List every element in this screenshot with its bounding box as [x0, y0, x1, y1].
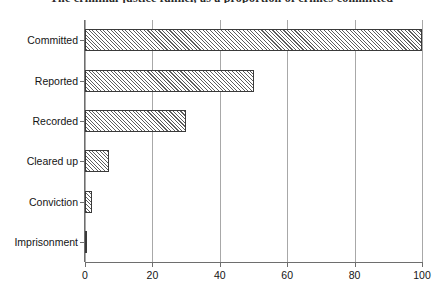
- gridline-100: [422, 20, 423, 262]
- x-tick-40: [220, 262, 221, 267]
- x-axis-line: [85, 262, 423, 263]
- x-tick-label-100: 100: [402, 270, 442, 281]
- gridline-80: [355, 20, 356, 262]
- x-tick-100: [422, 262, 423, 267]
- chart-title: The criminal justice funnel, as a propor…: [0, 0, 443, 3]
- x-tick-label-80: 80: [335, 270, 375, 281]
- bar-cleared-up: [85, 150, 109, 172]
- bar-fill: [85, 150, 109, 172]
- bar-fill: [85, 29, 422, 51]
- y-axis-label-reported: Reported: [0, 76, 78, 87]
- bar-imprisonment: [85, 231, 86, 253]
- x-tick-20: [152, 262, 153, 267]
- bar-fill: [85, 70, 254, 92]
- gridline-40: [220, 20, 221, 262]
- gridline-20: [152, 20, 153, 262]
- bar-recorded: [85, 110, 186, 132]
- bar-reported: [85, 70, 254, 92]
- x-tick-label-40: 40: [200, 270, 240, 281]
- gridline-60: [287, 20, 288, 262]
- bar-fill: [85, 231, 87, 253]
- x-tick-label-0: 0: [65, 270, 105, 281]
- x-tick-0: [85, 262, 86, 267]
- gridline-0: [85, 20, 86, 262]
- y-axis-label-conviction: Conviction: [0, 197, 78, 208]
- y-axis-label-committed: Committed: [0, 35, 78, 46]
- bar-committed: [85, 29, 422, 51]
- bar-chart: The criminal justice funnel, as a propor…: [0, 0, 443, 293]
- bar-fill: [85, 191, 92, 213]
- bar-fill: [85, 110, 186, 132]
- y-axis-label-recorded: Recorded: [0, 116, 78, 127]
- x-tick-80: [355, 262, 356, 267]
- x-tick-60: [287, 262, 288, 267]
- x-tick-label-60: 60: [267, 270, 307, 281]
- x-tick-label-20: 20: [132, 270, 172, 281]
- y-axis-label-cleared-up: Cleared up: [0, 156, 78, 167]
- y-axis-label-imprisonment: Imprisonment: [0, 237, 78, 248]
- bar-conviction: [85, 191, 92, 213]
